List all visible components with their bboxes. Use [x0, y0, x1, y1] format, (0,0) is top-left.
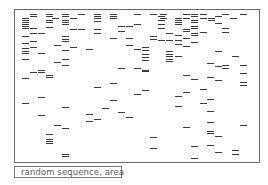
dash-mark — [62, 22, 69, 23]
dash-mark — [30, 28, 37, 29]
dash-mark — [175, 22, 182, 23]
dash-mark — [200, 89, 207, 90]
dash-mark — [200, 14, 207, 15]
random-sequence-plot — [0, 0, 268, 185]
dash-mark — [30, 41, 37, 42]
dash-mark — [166, 61, 173, 62]
dash-mark — [94, 18, 101, 19]
dash-mark — [166, 59, 173, 60]
dash-mark — [46, 134, 53, 135]
dash-mark — [150, 39, 157, 40]
dash-mark — [158, 20, 165, 21]
dash-mark — [62, 41, 69, 42]
dash-mark — [240, 65, 247, 66]
dash-mark — [142, 50, 149, 51]
dash-mark — [110, 14, 117, 15]
dash-mark — [30, 47, 37, 48]
dash-mark — [150, 14, 157, 15]
dash-mark — [207, 111, 214, 112]
dash-mark — [175, 24, 182, 25]
dash-mark — [215, 51, 222, 52]
dash-mark — [183, 75, 190, 76]
dash-mark — [166, 54, 173, 55]
dash-mark — [62, 59, 69, 60]
dash-mark — [191, 35, 198, 36]
dash-mark — [134, 68, 141, 69]
dash-mark — [207, 131, 214, 132]
dash-mark — [46, 16, 53, 17]
dash-mark — [158, 40, 165, 41]
dash-mark — [62, 36, 69, 37]
dash-mark — [94, 33, 101, 34]
dash-mark — [175, 40, 182, 41]
dash-mark — [150, 36, 157, 37]
dash-mark — [22, 26, 29, 27]
dash-mark — [175, 35, 182, 36]
dash-mark — [175, 56, 182, 57]
dash-mark — [62, 20, 69, 21]
dash-mark — [22, 24, 29, 25]
dash-mark — [150, 148, 157, 149]
dash-mark — [46, 75, 53, 76]
dash-mark — [38, 72, 45, 73]
dash-mark — [22, 51, 29, 52]
dash-mark — [22, 28, 29, 29]
figure-caption: random sequence, area — [14, 166, 122, 178]
dash-mark — [207, 99, 214, 100]
dash-mark — [62, 14, 69, 15]
dash-mark — [62, 156, 69, 157]
dash-mark — [22, 36, 29, 37]
dash-mark — [191, 79, 198, 80]
dash-mark — [222, 65, 229, 66]
dash-mark — [46, 14, 53, 15]
dash-mark — [183, 31, 190, 32]
dash-mark — [175, 96, 182, 97]
dash-mark — [78, 14, 85, 15]
dash-mark — [230, 18, 237, 19]
dash-mark — [232, 154, 239, 155]
dash-mark — [175, 44, 182, 45]
dash-mark — [191, 33, 198, 34]
dash-mark — [183, 38, 190, 39]
dash-mark — [46, 27, 53, 28]
dash-mark — [200, 32, 207, 33]
dash-mark — [62, 107, 69, 108]
dash-mark — [166, 33, 173, 34]
dash-mark — [38, 115, 45, 116]
dash-mark — [22, 53, 29, 54]
dash-mark — [126, 38, 133, 39]
dash-mark — [150, 137, 157, 138]
dash-mark — [240, 73, 247, 74]
dash-mark — [110, 16, 117, 17]
dash-mark — [118, 31, 125, 32]
dash-mark — [118, 26, 125, 27]
dash-mark — [175, 18, 182, 19]
dash-mark — [183, 14, 190, 15]
dash-mark — [86, 121, 93, 122]
dash-mark — [46, 22, 53, 23]
dash-mark — [191, 14, 198, 15]
dash-mark — [183, 46, 190, 47]
dash-mark — [94, 14, 101, 15]
dash-mark — [191, 42, 198, 43]
dash-mark — [70, 47, 77, 48]
dash-mark — [46, 141, 53, 142]
dash-mark — [232, 56, 239, 57]
dash-mark — [134, 24, 141, 25]
dash-mark — [94, 16, 101, 17]
dash-mark — [30, 33, 37, 34]
dash-mark — [166, 51, 173, 52]
dash-mark — [191, 158, 198, 159]
dash-mark — [183, 18, 190, 19]
dash-mark — [232, 150, 239, 151]
dash-mark — [110, 83, 117, 84]
dash-mark — [142, 47, 149, 48]
dash-mark — [70, 18, 77, 19]
dash-mark — [191, 28, 198, 29]
dash-mark — [86, 49, 93, 50]
dash-mark — [208, 20, 215, 21]
dash-mark — [118, 68, 125, 69]
dash-mark — [215, 23, 222, 24]
dash-mark — [240, 85, 247, 86]
dash-mark — [134, 14, 141, 15]
